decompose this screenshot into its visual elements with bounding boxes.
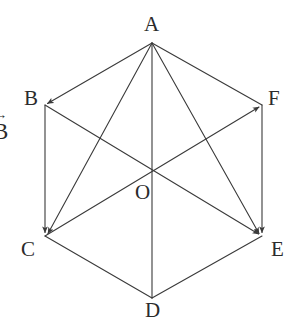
vertex-label-e: E (271, 239, 284, 260)
vertex-label-b: B (24, 88, 38, 109)
vertex-label-d: D (145, 300, 160, 321)
vector-label-text: B (0, 120, 8, 143)
edge-c-d (45, 236, 152, 298)
vertex-label-c: C (21, 239, 35, 260)
edge-a-f (152, 43, 262, 105)
vertex-label-a: A (144, 14, 159, 35)
vector-label-b-clipped: → B (0, 112, 8, 143)
edge-d-e (152, 236, 262, 298)
hexagon-figure: A B C D E F O → B (0, 0, 298, 333)
edge-a-e (152, 43, 259, 234)
hexagon-diagram (0, 0, 298, 333)
vertex-label-f: F (268, 88, 280, 109)
vertex-label-o: O (135, 182, 150, 203)
edge-a-b (48, 43, 153, 104)
